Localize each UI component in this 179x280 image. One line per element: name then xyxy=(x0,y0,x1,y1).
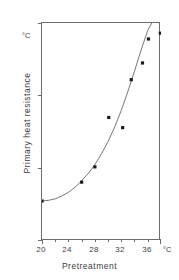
data-point xyxy=(147,37,150,40)
data-point xyxy=(130,78,133,81)
x-tick-label-24: 24 xyxy=(55,245,79,254)
data-point xyxy=(141,61,144,64)
x-tick-label-36: 36 xyxy=(135,245,159,254)
data-point xyxy=(93,165,96,168)
data-point xyxy=(121,126,124,129)
y-axis-unit-label: °C xyxy=(22,31,30,40)
x-axis-unit-label: °C xyxy=(163,245,171,254)
chart-figure: 47 46 45 44 °C 20 24 28 32 36 °C Primary… xyxy=(0,0,179,280)
data-point-group xyxy=(42,32,161,203)
x-tick-label-20: 20 xyxy=(29,245,53,254)
plot-data-area xyxy=(42,23,159,239)
plot-frame xyxy=(41,22,160,240)
fitted-curve xyxy=(42,23,152,201)
data-point xyxy=(80,181,83,184)
data-point xyxy=(159,32,161,35)
x-tick-label-28: 28 xyxy=(82,245,106,254)
x-tick-label-32: 32 xyxy=(108,245,132,254)
y-axis-title: Primary heat resistance xyxy=(22,43,32,203)
plot-canvas xyxy=(42,23,161,241)
x-axis-title: Pretreatment xyxy=(0,261,179,271)
data-point xyxy=(107,116,110,119)
data-point xyxy=(42,199,44,202)
